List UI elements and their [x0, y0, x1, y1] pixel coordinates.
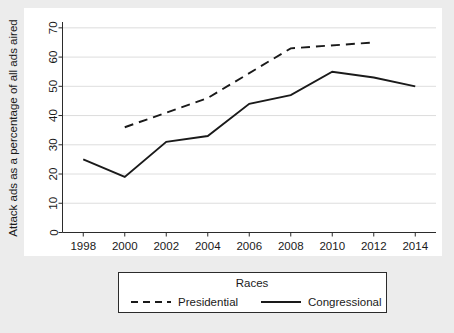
line-chart-canvas: 010203040506070 199820002002200420062008…	[0, 0, 454, 333]
y-tick-label: 40	[48, 109, 60, 122]
x-tick-label: 2002	[153, 240, 179, 252]
x-tick-label: 2000	[112, 240, 138, 252]
legend-title: Races	[236, 277, 269, 289]
y-tick-label: 50	[48, 80, 60, 93]
plot-panel-background	[24, 8, 442, 256]
chart-figure: 010203040506070 199820002002200420062008…	[0, 0, 454, 333]
x-tick-label: 1998	[70, 240, 96, 252]
y-tick-label: 10	[48, 197, 60, 210]
y-tick-label: 20	[48, 168, 60, 181]
x-tick-label: 2004	[195, 240, 221, 252]
y-tick-label: 60	[48, 51, 60, 64]
y-axis-title: Attack ads as a percentage of all ads ai…	[7, 19, 19, 236]
x-tick-label: 2010	[319, 240, 345, 252]
legend-label-congressional: Congressional	[308, 296, 382, 308]
y-tick-label: 70	[48, 21, 60, 34]
x-tick-label: 2012	[361, 240, 387, 252]
x-tick-label: 2014	[402, 240, 428, 252]
y-tick-label: 0	[48, 229, 60, 235]
legend-label-presidential: Presidential	[178, 296, 238, 308]
x-tick-label: 2008	[278, 240, 304, 252]
x-tick-label: 2006	[236, 240, 262, 252]
y-tick-label: 30	[48, 138, 60, 151]
